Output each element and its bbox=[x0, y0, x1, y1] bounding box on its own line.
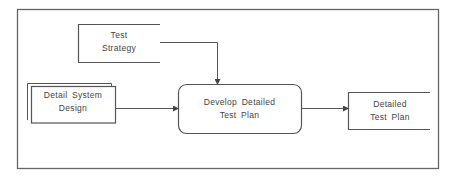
label-line: Strategy bbox=[78, 42, 160, 55]
label-line: Test bbox=[78, 29, 160, 42]
edge-strategy-to-develop bbox=[160, 43, 218, 85]
label-detailed-test-plan: Detailed Test Plan bbox=[360, 98, 420, 124]
label-line: Detail System bbox=[31, 89, 115, 102]
label-line: Detailed bbox=[360, 98, 420, 111]
label-line: Test Plan bbox=[360, 111, 420, 124]
label-test-strategy: Test Strategy bbox=[78, 29, 160, 55]
label-detail-system-design: Detail System Design bbox=[31, 89, 115, 115]
label-line: Test Plan bbox=[178, 109, 301, 122]
label-line: Develop Detailed bbox=[178, 96, 301, 109]
label-line: Design bbox=[31, 102, 115, 115]
label-develop-detailed-test-plan: Develop Detailed Test Plan bbox=[178, 96, 301, 122]
